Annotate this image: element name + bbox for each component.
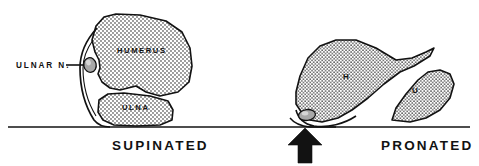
label-humerus: HUMERUS — [117, 46, 167, 55]
label-ulna-abbrev: U — [412, 86, 418, 95]
panel-pronated: H U PRONATED — [288, 40, 473, 163]
ulna-bone-pronated — [392, 70, 454, 122]
ulnar-nerve-figure: ULNAR N. HUMERUS ULNA SUPINATED — [0, 0, 479, 166]
humerus-bone-supinated — [92, 14, 192, 96]
figure-canvas: ULNAR N. HUMERUS ULNA SUPINATED — [0, 0, 479, 166]
label-ulna: ULNA — [122, 103, 150, 112]
panel-supinated: ULNAR N. HUMERUS ULNA SUPINATED — [16, 14, 209, 153]
label-ulnar-nerve: ULNAR N. — [16, 61, 70, 70]
caption-pronated: PRONATED — [381, 138, 473, 153]
caption-supinated: SUPINATED — [112, 138, 209, 153]
ulnar-nerve-supinated — [82, 56, 97, 73]
label-humerus-abbrev: H — [343, 72, 349, 81]
compression-arrow-icon — [288, 128, 322, 163]
